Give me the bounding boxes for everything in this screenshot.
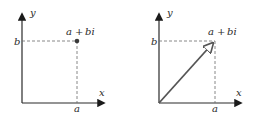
point-label-a: a: [66, 26, 72, 37]
y-axis-label: y: [166, 7, 173, 18]
point-marker-icon: [75, 39, 80, 44]
x-axis-label: x: [99, 87, 105, 98]
imag-tick-label: b: [151, 36, 157, 47]
imag-tick-label: b: [14, 36, 20, 47]
point-label-bi: bi: [85, 26, 95, 37]
point-label-a: a: [208, 26, 214, 37]
y-axis-label: y: [29, 7, 36, 18]
point-label-plus: +: [75, 26, 83, 37]
x-axis-label: x: [236, 87, 242, 98]
complex-plane-figures: y x b a a + bi y x b a a + bi: [0, 0, 253, 115]
point-label-plus: +: [217, 26, 225, 37]
real-tick-label: a: [74, 103, 80, 114]
diagram-vector: y x b a a + bi: [151, 7, 242, 114]
diagram-point: y x b a a + bi: [14, 7, 105, 114]
point-label-bi: bi: [227, 26, 237, 37]
real-tick-label: a: [212, 103, 218, 114]
vector-arrow-icon: [159, 43, 213, 103]
